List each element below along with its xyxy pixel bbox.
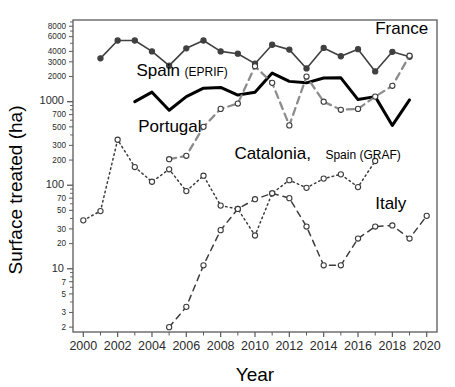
data-point-marker xyxy=(321,45,326,50)
y-tick-label: 70 xyxy=(57,194,67,203)
data-point-marker xyxy=(132,164,137,169)
data-point-marker xyxy=(338,263,343,268)
data-point-marker xyxy=(304,224,309,229)
data-point-marker xyxy=(390,83,395,88)
series-label-main: France xyxy=(375,19,428,38)
x-tick-label: 2012 xyxy=(275,339,303,353)
data-point-marker xyxy=(184,153,189,158)
data-point-marker xyxy=(81,218,86,223)
data-point-marker xyxy=(338,172,343,177)
data-point-marker xyxy=(218,203,223,208)
y-tick-label: 1000 xyxy=(40,94,64,106)
y-tick-label: 500 xyxy=(52,123,66,132)
data-point-marker xyxy=(355,47,360,52)
data-point-marker xyxy=(252,233,257,238)
data-point-marker xyxy=(390,49,395,54)
data-point-marker xyxy=(287,178,292,183)
series-label-main: Spain xyxy=(137,61,180,80)
x-tick-label: 2002 xyxy=(104,339,132,353)
data-point-marker xyxy=(167,167,172,172)
data-point-marker xyxy=(167,157,172,162)
data-point-marker xyxy=(287,47,292,52)
data-point-marker xyxy=(98,209,103,214)
y-tick-label: 50 xyxy=(57,206,67,215)
data-point-marker xyxy=(184,304,189,309)
data-point-marker xyxy=(338,54,343,59)
data-point-marker xyxy=(304,66,309,71)
y-tick-label: 8000 xyxy=(48,22,67,31)
y-axis-title: Surface treated (ha) xyxy=(5,106,26,275)
x-axis-title: Year xyxy=(236,364,275,385)
data-point-marker xyxy=(235,51,240,56)
data-point-marker xyxy=(149,179,154,184)
data-point-marker xyxy=(321,263,326,268)
data-point-marker xyxy=(218,49,223,54)
x-tick-label: 2000 xyxy=(69,339,97,353)
y-tick-label: 100 xyxy=(46,178,64,190)
data-point-marker xyxy=(424,213,429,218)
series-label-main: Italy xyxy=(375,194,407,213)
data-point-marker xyxy=(252,197,257,202)
y-tick-label: 4000 xyxy=(48,47,67,56)
data-point-marker xyxy=(287,123,292,128)
data-point-marker xyxy=(373,224,378,229)
y-tick-label: 700 xyxy=(52,110,66,119)
y-tick-label: 200 xyxy=(52,156,66,165)
data-point-marker xyxy=(270,80,275,85)
series-label-sub: (EPRIF) xyxy=(185,65,228,79)
data-point-marker xyxy=(304,185,309,190)
data-point-marker xyxy=(132,38,137,43)
y-tick-label: 300 xyxy=(52,141,66,150)
y-tick-label: 30 xyxy=(57,225,67,234)
data-point-marker xyxy=(201,124,206,129)
data-point-marker xyxy=(373,94,378,99)
data-point-marker xyxy=(98,56,103,61)
data-point-marker xyxy=(287,196,292,201)
y-tick-label: 7 xyxy=(61,278,66,287)
data-point-marker xyxy=(355,236,360,241)
data-point-marker xyxy=(321,176,326,181)
data-point-marker xyxy=(407,236,412,241)
y-tick-label: 2 xyxy=(61,323,66,332)
x-tick-label: 2006 xyxy=(172,339,200,353)
data-point-marker xyxy=(184,189,189,194)
y-tick-label: 3000 xyxy=(48,58,67,67)
y-tick-label: 2000 xyxy=(48,72,67,81)
series-label-main: Portugal xyxy=(138,117,201,136)
x-tick-label: 2018 xyxy=(378,339,406,353)
data-point-marker xyxy=(355,184,360,189)
x-tick-label: 2014 xyxy=(310,339,338,353)
data-point-marker xyxy=(184,46,189,51)
data-point-marker xyxy=(201,38,206,43)
data-point-marker xyxy=(218,106,223,111)
data-point-marker xyxy=(270,191,275,196)
x-tick-label: 2008 xyxy=(207,339,235,353)
x-tick-label: 2010 xyxy=(241,339,269,353)
data-point-marker xyxy=(390,223,395,228)
data-point-marker xyxy=(304,74,309,79)
data-point-marker xyxy=(270,42,275,47)
y-tick-label: 20 xyxy=(57,239,67,248)
y-tick-label: 6000 xyxy=(48,32,67,41)
data-point-marker xyxy=(201,263,206,268)
surface-treated-by-year-line-chart: 2357102030507010020030050070010002000300… xyxy=(0,0,455,387)
data-point-marker xyxy=(201,173,206,178)
chart-container: 2357102030507010020030050070010002000300… xyxy=(0,0,455,387)
data-point-marker xyxy=(115,137,120,142)
data-point-marker xyxy=(167,325,172,330)
data-point-marker xyxy=(252,64,257,69)
y-tick-label: 5 xyxy=(61,290,66,299)
x-tick-label: 2016 xyxy=(344,339,372,353)
data-point-marker xyxy=(115,38,120,43)
data-point-marker xyxy=(235,206,240,211)
data-point-marker xyxy=(338,107,343,112)
data-point-marker xyxy=(373,69,378,74)
series-label-italy: Italy xyxy=(375,194,407,213)
series-label-portugal: Portugal xyxy=(138,117,201,136)
data-point-marker xyxy=(407,53,412,58)
series-label-main: Catalonia, xyxy=(234,144,311,163)
data-point-marker xyxy=(218,228,223,233)
data-point-marker xyxy=(235,101,240,106)
series-label-sub: Spain (GRAF) xyxy=(325,148,400,162)
x-tick-label: 2020 xyxy=(413,339,441,353)
